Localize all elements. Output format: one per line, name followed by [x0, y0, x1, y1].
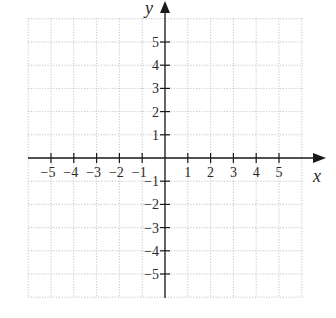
x-tick-label: −2	[109, 165, 124, 180]
y-tick-label: −2	[144, 197, 159, 212]
x-axis-arrow-icon	[313, 153, 326, 163]
y-tick-label: 5	[152, 35, 159, 50]
y-tick-label: 3	[152, 81, 159, 96]
y-tick-label: 2	[152, 105, 159, 120]
y-axis-arrow-icon	[160, 1, 170, 13]
y-tick-label: −1	[144, 174, 159, 189]
y-tick-label: −4	[144, 244, 159, 259]
y-tick-label: 1	[152, 128, 159, 143]
x-tick-label: 1	[184, 165, 191, 180]
x-tick-label: −4	[63, 165, 78, 180]
coordinate-plane: −5−4−3−2−112345−5−4−3−2−112345 x y	[0, 0, 336, 318]
y-tick-label: −3	[144, 221, 159, 236]
y-axis-label: y	[143, 0, 153, 18]
x-tick-label: −5	[41, 165, 56, 180]
x-axis-label: x	[312, 166, 321, 186]
y-tick-label: −5	[144, 267, 159, 282]
x-tick-label: 4	[253, 165, 260, 180]
axes	[28, 1, 326, 298]
x-tick-label: 5	[276, 165, 283, 180]
x-tick-label: 3	[230, 165, 237, 180]
x-tick-label: −3	[86, 165, 101, 180]
y-tick-label: 4	[152, 58, 159, 73]
x-tick-label: 2	[207, 165, 214, 180]
